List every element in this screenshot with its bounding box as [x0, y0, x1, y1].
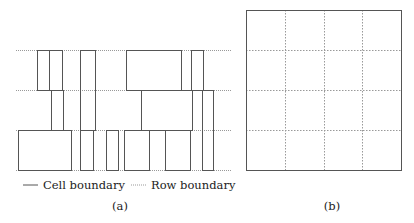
grid-lines — [246, 10, 401, 170]
row-boundary-legend-label: Row boundary — [151, 178, 236, 192]
cell-rect — [125, 131, 150, 171]
panel-b-grid: (b) — [246, 10, 402, 213]
legend: Cell boundary Row boundary — [23, 178, 236, 192]
panel-a-caption: (a) — [112, 199, 128, 213]
cell-rect — [81, 131, 94, 171]
cell-rect — [192, 51, 204, 91]
panel-a-cell-placement: Cell boundary Row boundary (a) — [16, 51, 236, 214]
cell-rect — [52, 91, 64, 131]
cell-rect — [19, 131, 72, 171]
panel-b-caption: (b) — [324, 199, 340, 213]
cell-boundaries — [19, 51, 214, 171]
cell-rect — [166, 131, 191, 171]
cell-rect — [127, 51, 182, 91]
cell-rect — [38, 51, 50, 91]
cell-rect — [142, 91, 193, 131]
cell-boundary-legend-label: Cell boundary — [43, 178, 125, 192]
figure: Cell boundary Row boundary (a) (b) — [0, 0, 414, 223]
cell-rect — [107, 131, 119, 171]
cell-rect — [50, 51, 63, 91]
